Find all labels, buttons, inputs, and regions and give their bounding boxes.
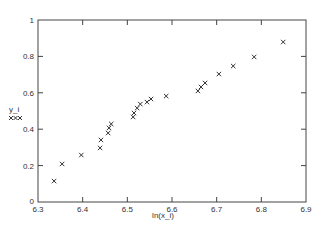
y-tick-label: 0 — [30, 197, 35, 206]
x-tick-label: 6.4 — [77, 205, 89, 214]
y-tick-label: 0.8 — [23, 52, 35, 61]
x-marker-icon — [79, 153, 83, 157]
x-tick-label: 6.9 — [300, 205, 312, 214]
x-marker-icon — [145, 100, 149, 104]
x-marker-icon — [60, 162, 64, 166]
x-marker-icon — [252, 55, 256, 59]
x-marker-icon — [217, 72, 221, 76]
y-label-marker-icon — [9, 116, 22, 120]
y-tick-label: 0.2 — [23, 162, 35, 171]
x-marker-icon — [135, 106, 139, 110]
y-tick-label: 1 — [30, 16, 35, 25]
x-marker-icon — [164, 94, 168, 98]
x-marker-icon — [281, 40, 285, 44]
x-tick-label: 6.3 — [32, 205, 44, 214]
x-marker-icon — [196, 89, 200, 93]
x-marker-icon — [52, 179, 56, 183]
x-axis-label: ln(x_i) — [152, 211, 174, 220]
x-tick-label: 6.7 — [211, 205, 223, 214]
x-marker-icon — [203, 81, 207, 85]
x-marker-icon — [98, 146, 102, 150]
x-marker-icon — [106, 131, 110, 135]
x-marker-icon — [231, 64, 235, 68]
plot-axes: 6.36.46.56.66.76.86.900.20.40.60.81 — [23, 16, 312, 214]
x-marker-icon — [132, 111, 136, 115]
y-tick-label: 0.6 — [23, 89, 35, 98]
x-marker-icon — [109, 122, 113, 126]
x-tick-label: 6.5 — [122, 205, 134, 214]
data-points — [52, 40, 286, 183]
x-marker-icon — [99, 138, 103, 142]
x-marker-icon — [149, 97, 153, 101]
x-marker-icon — [107, 126, 111, 130]
y-axis-title: y_i — [9, 105, 22, 120]
x-tick-label: 6.8 — [256, 205, 268, 214]
x-marker-icon — [131, 115, 135, 119]
y-tick-label: 0.4 — [23, 125, 35, 134]
plot-frame — [38, 20, 306, 202]
scatter-chart: 6.36.46.56.66.76.86.900.20.40.60.81 y_i … — [0, 0, 323, 233]
x-marker-icon — [199, 85, 203, 89]
y-axis-label: y_i — [9, 105, 19, 114]
x-marker-icon — [138, 102, 142, 106]
